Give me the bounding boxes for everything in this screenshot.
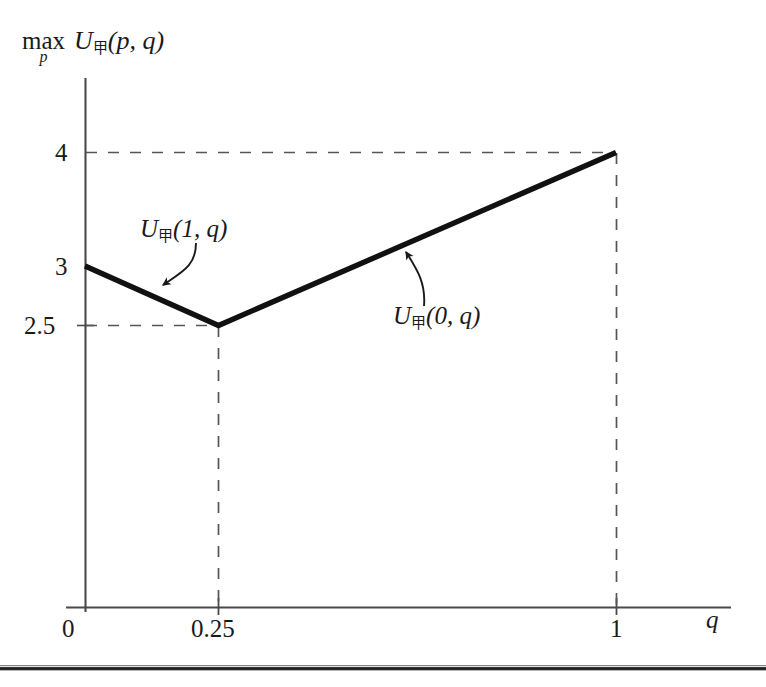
annotation-label-u-1-q: U甲(1, q) xyxy=(140,216,227,244)
page-bottom-rule xyxy=(0,664,766,671)
annotation-2-player-subscript-icon: 甲 xyxy=(411,314,426,332)
x-axis-label: q xyxy=(706,607,719,632)
annotation-2-arguments: (0, q) xyxy=(426,302,480,329)
x-tick-label-0: 0 xyxy=(62,615,75,643)
y-tick-label-25: 2.5 xyxy=(24,312,55,340)
y-tick-label-4: 4 xyxy=(55,139,68,167)
annotation-1-arguments: (1, q) xyxy=(173,215,227,242)
x-tick-label-1: 1 xyxy=(610,615,623,643)
annotation-label-u-0-q: U甲(0, q) xyxy=(393,303,480,331)
annotation-arrow-u-0-q xyxy=(406,252,424,306)
figure-canvas: max p U甲(p, q) 4 3 2.5 0 xyxy=(0,0,766,687)
annotation-2-utility-symbol: U xyxy=(393,302,411,329)
x-tick-label-025: 0.25 xyxy=(191,615,235,643)
plot-area xyxy=(0,0,766,687)
y-tick-label-3: 3 xyxy=(55,253,68,281)
annotation-1-player-subscript-icon: 甲 xyxy=(158,227,173,245)
annotation-1-utility-symbol: U xyxy=(140,215,158,242)
annotation-arrow-u-1-q xyxy=(163,243,196,285)
